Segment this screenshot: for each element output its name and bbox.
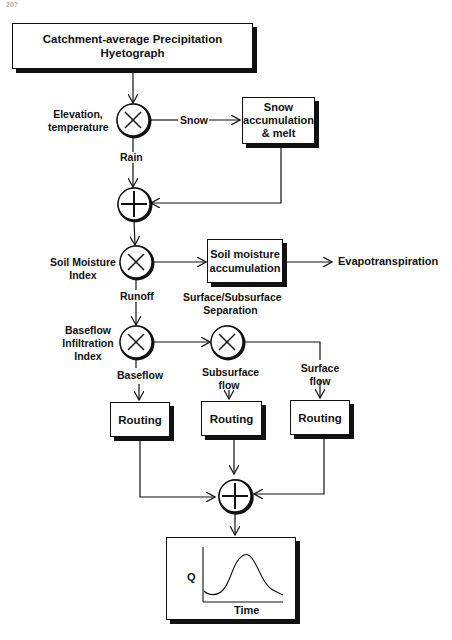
surface-subsurface-separation-label: Surface/Subsurface Separation xyxy=(183,291,278,317)
routing-box-baseflow: Routing xyxy=(110,402,170,437)
multiply-node-baseflow xyxy=(120,326,153,359)
rain-edge-label: Rain xyxy=(120,151,143,164)
evapotranspiration-label: Evapotranspiration xyxy=(338,255,438,268)
snow-line-3: & melt xyxy=(262,127,296,140)
subsurface-flow-label: Subsurface flow xyxy=(202,366,256,392)
multiply-node-soil-moisture xyxy=(120,246,153,279)
precipitation-hyetograph-box: Catchment-average Precipitation Hyetogra… xyxy=(12,23,253,69)
snow-line-1: Snow xyxy=(264,101,293,114)
soil-line-1: Soil moisture xyxy=(210,247,280,261)
baseflow-infiltration-index-label: Baseflow Infiltration Index xyxy=(58,324,118,363)
routing-label: Routing xyxy=(118,413,161,427)
snow-line-2: accumulation xyxy=(243,114,314,127)
title-line-2: Hyetograph xyxy=(101,46,165,60)
q-axis-label: Q xyxy=(187,571,196,584)
elevation-temperature-label: Elevation, temperature xyxy=(48,108,108,134)
routing-label: Routing xyxy=(210,412,253,426)
label-line: Index xyxy=(50,269,116,282)
baseflow-edge-label: Baseflow xyxy=(117,369,163,382)
label-line: Elevation, xyxy=(48,108,108,121)
label-line: flow xyxy=(298,375,342,388)
label-line: Infiltration xyxy=(58,337,118,350)
routing-label: Routing xyxy=(298,411,341,425)
soil-moisture-index-label: Soil Moisture Index xyxy=(50,256,116,282)
label-line: Surface/Subsurface xyxy=(183,291,278,304)
label-line: flow xyxy=(202,379,256,392)
label-line: Index xyxy=(58,350,118,363)
hydrograph-box: Q Time xyxy=(166,537,296,620)
multiply-node-elevation xyxy=(117,104,150,137)
label-line: Baseflow xyxy=(58,324,118,337)
snow-edge-label: Snow xyxy=(179,114,209,127)
snow-accumulation-box: Snow accumulation & melt xyxy=(242,97,315,144)
routing-box-surface: Routing xyxy=(290,400,350,435)
runoff-edge-label: Runoff xyxy=(120,290,154,303)
soil-moisture-accumulation-box: Soil moisture accumulation xyxy=(207,239,283,283)
time-axis-label: Time xyxy=(234,604,259,617)
sum-node-rain-melt xyxy=(118,188,151,221)
title-line-1: Catchment-average Precipitation xyxy=(43,32,223,46)
label-line: temperature xyxy=(48,121,108,134)
multiply-node-surface-separation xyxy=(211,326,244,359)
label-line: Surface xyxy=(298,362,342,375)
routing-box-subsurface: Routing xyxy=(201,401,262,436)
label-line: Soil Moisture xyxy=(50,256,116,269)
label-line: Subsurface xyxy=(202,366,256,379)
sum-node-routing xyxy=(219,480,252,513)
soil-line-2: accumulation xyxy=(210,261,281,275)
label-line: Separation xyxy=(183,304,278,317)
surface-flow-label: Surface flow xyxy=(298,362,342,388)
